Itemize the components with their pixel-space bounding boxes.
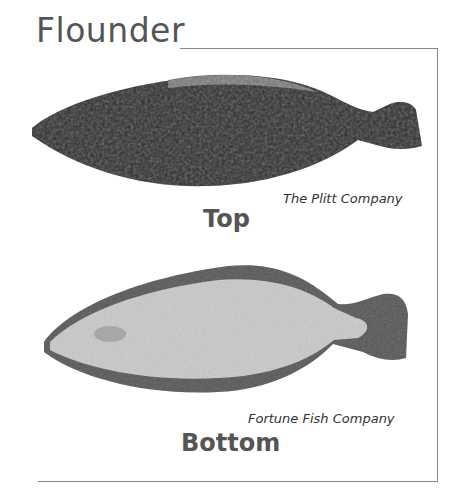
side-label-bottom: Bottom <box>181 429 280 457</box>
side-label-top: Top <box>203 205 250 233</box>
frame-border-top <box>180 48 438 49</box>
flounder-bottom-image <box>38 258 410 398</box>
frame-border-bottom <box>38 481 438 482</box>
photo-credit-top: The Plitt Company <box>283 191 403 206</box>
frame-border-right <box>437 48 438 482</box>
photo-credit-bottom: Fortune Fish Company <box>248 411 395 426</box>
page-title: Flounder <box>36 14 185 47</box>
flounder-top-image <box>28 66 424 192</box>
